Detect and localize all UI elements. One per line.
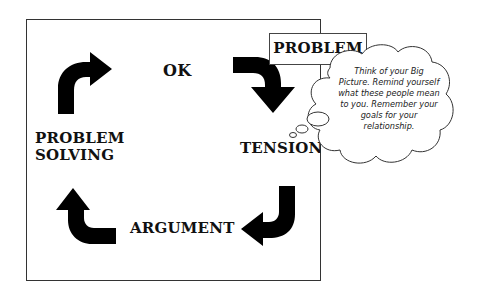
stage-argument-label: ARGUMENT bbox=[130, 220, 235, 237]
cycle-diagram: OK TENSION ARGUMENT PROBLEM SOLVING PROB… bbox=[0, 0, 480, 295]
stage-problem-solving-line2: SOLVING bbox=[35, 147, 124, 164]
thought-bubble-text: Think of your Big Picture. Remind yourse… bbox=[338, 66, 440, 132]
curved-arrow-up-right-icon bbox=[58, 52, 112, 114]
curved-arrow-left-up-icon bbox=[56, 188, 116, 244]
stage-problem-solving-label: PROBLEM SOLVING bbox=[35, 130, 124, 165]
stage-problem-solving-line1: PROBLEM bbox=[35, 130, 124, 147]
curved-arrow-down-left-icon bbox=[241, 186, 295, 246]
stage-ok-label: OK bbox=[163, 62, 191, 80]
